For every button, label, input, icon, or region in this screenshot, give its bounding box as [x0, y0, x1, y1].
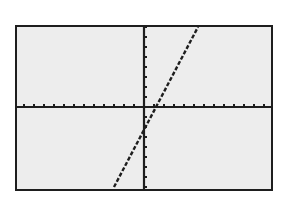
- graph-plot: [0, 0, 284, 206]
- axes: [17, 27, 271, 189]
